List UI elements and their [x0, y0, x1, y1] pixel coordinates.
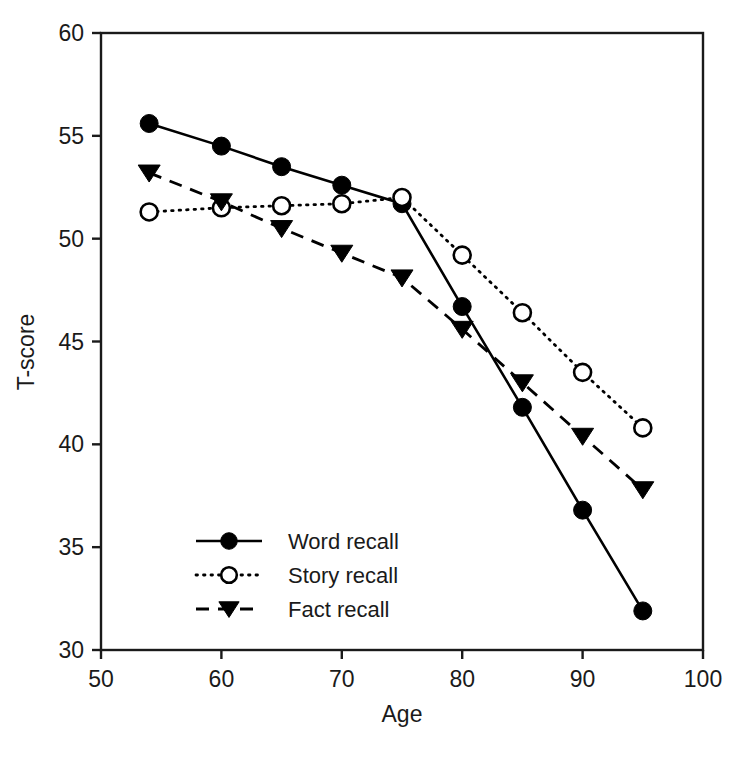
legend-label: Word recall: [288, 529, 399, 554]
data-point-triangle-down: [331, 245, 353, 262]
data-point-open-circle: [514, 304, 531, 321]
legend-label: Story recall: [288, 563, 398, 588]
series-line: [149, 198, 643, 428]
data-point-filled-circle: [574, 501, 592, 519]
data-point-filled-circle: [634, 602, 652, 620]
y-tick-label: 35: [58, 534, 84, 560]
legend-item-fact-recall: Fact recall: [196, 597, 389, 622]
y-tick-label: 60: [58, 20, 84, 46]
legend-item-word-recall: Word recall: [196, 529, 399, 554]
x-axis-title: Age: [382, 701, 423, 727]
data-point-triangle-down: [572, 428, 594, 445]
x-axis-ticks: [101, 650, 703, 659]
data-point-open-circle: [394, 189, 411, 206]
data-point-open-circle: [574, 364, 591, 381]
data-point-filled-circle: [513, 398, 531, 416]
x-tick-label: 60: [209, 666, 235, 692]
data-point-triangle-down: [632, 482, 654, 499]
data-point-open-circle: [333, 195, 350, 212]
line-chart: 30354045505560 5060708090100 Age T-score…: [0, 0, 740, 757]
data-point-open-circle: [273, 197, 290, 214]
data-point-filled-circle: [140, 114, 158, 132]
series-markers-story-recall: [141, 189, 652, 436]
x-tick-label: 90: [570, 666, 596, 692]
legend-item-story-recall: Story recall: [196, 563, 398, 588]
y-axis-tick-labels: 30354045505560: [58, 20, 84, 663]
data-point-open-circle: [454, 247, 471, 264]
data-point-filled-circle: [333, 176, 351, 194]
x-tick-label: 70: [329, 666, 355, 692]
y-tick-label: 40: [58, 431, 84, 457]
x-tick-label: 100: [684, 666, 722, 692]
y-tick-label: 55: [58, 123, 84, 149]
data-point-filled-circle: [453, 298, 471, 316]
series-line: [149, 173, 643, 490]
data-point-filled-circle: [273, 158, 291, 176]
x-tick-label: 80: [449, 666, 475, 692]
data-point-triangle-down: [391, 270, 413, 287]
y-tick-label: 45: [58, 329, 84, 355]
series-fact-recall: [149, 173, 643, 490]
data-point-open-circle: [221, 567, 237, 583]
data-point-open-circle: [634, 419, 651, 436]
y-tick-label: 30: [58, 637, 84, 663]
data-point-triangle-down: [138, 165, 160, 182]
legend-label: Fact recall: [288, 597, 389, 622]
y-tick-label: 50: [58, 226, 84, 252]
x-axis-tick-labels: 5060708090100: [88, 666, 722, 692]
data-point-open-circle: [141, 203, 158, 220]
x-tick-label: 50: [88, 666, 114, 692]
figure-container: 30354045505560 5060708090100 Age T-score…: [0, 0, 740, 757]
data-point-filled-circle: [212, 137, 230, 155]
y-axis-ticks: [92, 33, 101, 650]
data-point-triangle-down: [271, 221, 293, 238]
chart-legend: Word recallStory recallFact recall: [196, 529, 399, 622]
plot-area-border: [101, 33, 703, 650]
y-axis-title: T-score: [13, 314, 39, 391]
data-point-filled-circle: [221, 533, 238, 550]
series-story-recall: [149, 198, 643, 428]
plot-frame: [101, 33, 703, 650]
